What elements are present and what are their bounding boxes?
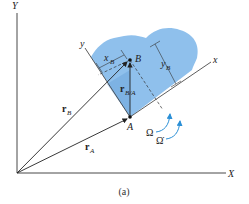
vector-rA [17, 119, 127, 173]
point-A-label: A [126, 121, 134, 132]
rBA-sub: B/A [125, 89, 136, 97]
global-x-label: X [227, 168, 235, 179]
relative-motion-diagram: Y X y x x B y B r A r B r B/A A B Ω Ω̇ (… [0, 0, 249, 204]
point-A [128, 115, 132, 119]
global-y-label: Y [12, 0, 19, 11]
omega-arrow-icon [156, 114, 170, 132]
rA-sub: A [89, 147, 95, 155]
point-B-label: B [135, 53, 141, 64]
yB-sub: B [166, 64, 171, 72]
figure-caption: (a) [118, 186, 129, 198]
omega-dot-label: Ω̇ [156, 135, 164, 146]
local-x-label: x [212, 54, 218, 65]
rB-sub: B [67, 109, 72, 117]
point-B [128, 58, 132, 62]
vector-rB [17, 62, 127, 173]
xB-label: x [103, 52, 109, 63]
omega-label: Ω [146, 127, 153, 138]
rigid-body [91, 28, 198, 117]
xB-sub: B [110, 58, 115, 66]
local-y-label: y [79, 38, 85, 49]
